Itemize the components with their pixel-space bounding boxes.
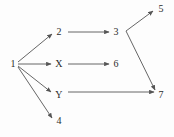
node-label-5: 5 bbox=[158, 4, 163, 14]
node-label-4: 4 bbox=[56, 116, 61, 126]
edge-3-to-5 bbox=[126, 11, 153, 31]
edge-3-to-7 bbox=[126, 31, 155, 90]
edges-group bbox=[18, 11, 155, 118]
node-label-6: 6 bbox=[113, 59, 118, 69]
edge-1-to-4 bbox=[18, 67, 52, 118]
node-label-7: 7 bbox=[158, 90, 163, 100]
node-label-1: 1 bbox=[10, 59, 15, 69]
node-label-3: 3 bbox=[113, 27, 118, 37]
graph-edges-canvas bbox=[0, 0, 174, 137]
node-label-2: 2 bbox=[56, 27, 61, 37]
node-label-X: X bbox=[55, 59, 62, 69]
graph-diagram: 12XY43657 bbox=[0, 0, 174, 137]
edge-1-to-2 bbox=[18, 34, 52, 62]
edge-1-to-Y bbox=[18, 66, 51, 92]
node-label-Y: Y bbox=[55, 90, 62, 100]
